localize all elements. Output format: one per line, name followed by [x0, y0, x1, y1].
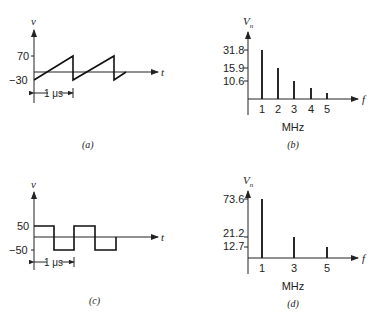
x-tick-5: 5 [324, 262, 330, 274]
panel-d-square-spectrum: Vn f 73.6 21.2 12.7 1 3 5 MHz (d) [223, 174, 367, 310]
x-tick-1: 1 [259, 103, 265, 115]
x-tick-1: 1 [259, 262, 265, 274]
y-tick-70: 70 [17, 50, 29, 62]
y-tick-15.9: 15.9 [223, 62, 244, 74]
caption-d: (d) [287, 298, 299, 310]
figure: v t 70 −30 1 μs (a) Vn f 31.8 15.9 10.6 … [0, 0, 379, 317]
square-waveform [34, 226, 116, 250]
y-tick-12.7: 12.7 [223, 240, 244, 252]
y-axis-label: Vn [243, 174, 254, 189]
y-tick-50: 50 [17, 220, 29, 232]
panel-a-sawtooth: v t 70 −30 1 μs (a) [9, 15, 165, 151]
period-label: 1 μs [44, 88, 63, 99]
x-tick-5: 5 [324, 103, 330, 115]
x-tick-2: 2 [275, 103, 281, 115]
y-tick-minus50: −50 [9, 244, 28, 256]
caption-b: (b) [287, 139, 299, 151]
y-tick-73.6: 73.6 [223, 193, 244, 205]
x-tick-4: 4 [308, 103, 314, 115]
y-tick-21.2: 21.2 [223, 227, 244, 239]
x-tick-3: 3 [291, 103, 297, 115]
y-tick-minus30: −30 [9, 74, 28, 86]
caption-a: (a) [82, 139, 94, 151]
x-axis-label: t [161, 231, 165, 243]
x-axis-label: t [161, 66, 165, 78]
x-tick-3: 3 [291, 262, 297, 274]
caption-c: (c) [89, 295, 101, 307]
y-axis-label: Vn [243, 15, 254, 30]
period-label: 1 μs [44, 257, 63, 268]
y-axis-label: v [31, 178, 36, 190]
panel-c-square-wave: v t 50 −50 1 μs (c) [9, 178, 165, 307]
panel-b-sawtooth-spectrum: Vn f 31.8 15.9 10.6 1 2 3 4 5 MHz (b) [223, 15, 367, 151]
y-tick-31.8: 31.8 [223, 44, 244, 56]
x-axis-label: f [362, 252, 367, 264]
y-tick-10.6: 10.6 [223, 75, 244, 87]
sawtooth-waveform [34, 56, 126, 80]
y-axis-label: v [31, 15, 36, 27]
x-unit: MHz [282, 121, 305, 133]
x-axis-label: f [362, 93, 367, 105]
x-unit: MHz [282, 280, 305, 292]
